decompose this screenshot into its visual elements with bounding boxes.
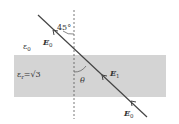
medium-outer-label: ε0 bbox=[23, 42, 31, 52]
refraction-diagram: 45° E0 ε0 εr=√3 θ E1 E0 bbox=[0, 0, 179, 124]
field-exit-label: E0 bbox=[123, 108, 134, 119]
field-incident-label: E0 bbox=[42, 37, 53, 48]
medium-slab-label: εr=√3 bbox=[17, 70, 41, 80]
angle-incident-label: 45° bbox=[57, 23, 71, 32]
angle-refracted-label: θ bbox=[80, 76, 85, 85]
